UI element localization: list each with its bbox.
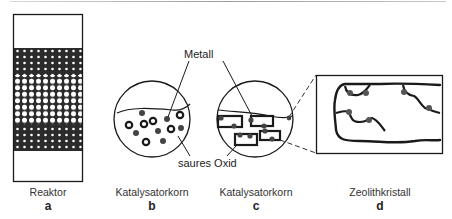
catalyst-grain-c: [217, 81, 293, 157]
panel-letter-b: b: [105, 199, 199, 213]
panel-letter-c: c: [209, 199, 303, 213]
caption-catalyst-grain-b: Katalysatorkorn: [105, 186, 199, 198]
caption-catalyst-grain-c: Katalysatorkorn: [209, 186, 303, 198]
acid-oxide-callout: saures Oxid: [178, 157, 237, 169]
caption-zeolite-crystal: Zeolithkristall: [340, 186, 420, 198]
caption-reactor: Reaktor: [18, 186, 78, 198]
metal-callout: Metall: [184, 48, 213, 60]
panel-letter-d: d: [340, 199, 420, 213]
panel-letter-a: a: [18, 199, 78, 213]
reactor: [14, 15, 83, 182]
zeolite-crystal: [317, 76, 443, 154]
catalyst-grain-b: [114, 81, 190, 157]
